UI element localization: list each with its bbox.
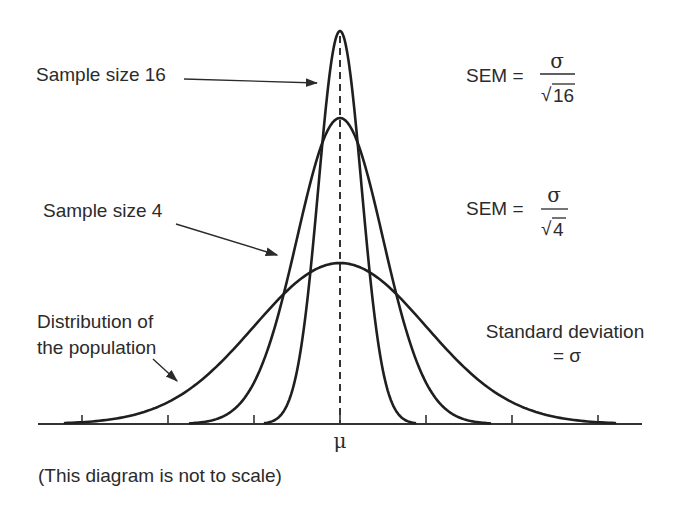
sem-4-numerator: σ: [547, 183, 561, 207]
population-arrow-icon: [153, 359, 177, 381]
sem-16-formula: SEM = σ √ 16: [466, 49, 575, 106]
sample-size-16-arrow-icon: [184, 79, 317, 83]
sem-16-numerator: σ: [550, 49, 564, 73]
standard-deviation-value: = σ: [553, 345, 581, 366]
sample-size-4-label: Sample size 4: [43, 200, 163, 221]
sem-4-formula: SEM = σ √ 4: [466, 183, 568, 240]
sem-4-lhs: SEM =: [466, 198, 524, 219]
sample-size-4-arrow-icon: [176, 224, 277, 255]
sampling-distribution-diagram: μ Sample size 16 Sample size 4 Distribut…: [0, 0, 675, 505]
population-label-line1: Distribution of: [37, 311, 154, 332]
sem-4-radicand: 4: [553, 219, 564, 240]
sem-4-radical-icon: √: [541, 218, 552, 239]
not-to-scale-note: (This diagram is not to scale): [38, 465, 282, 486]
population-label-line2: the population: [37, 337, 156, 358]
standard-deviation-label: Standard deviation: [486, 321, 644, 342]
sem-16-radicand: 16: [553, 85, 574, 106]
sem-16-lhs: SEM =: [466, 65, 524, 86]
mean-label: μ: [334, 429, 347, 453]
sample-size-16-label: Sample size 16: [36, 64, 166, 85]
sem-16-radical-icon: √: [541, 84, 552, 105]
